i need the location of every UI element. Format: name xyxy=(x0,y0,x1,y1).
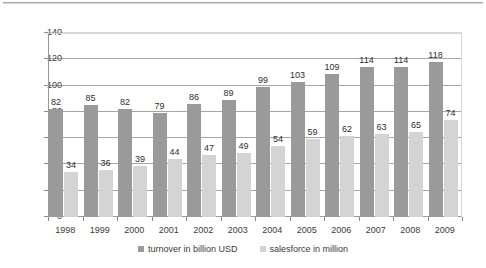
bar[interactable] xyxy=(271,146,285,217)
bar[interactable] xyxy=(429,62,443,217)
x-axis-tick-mark xyxy=(255,217,256,221)
bar-value-label: 82 xyxy=(112,98,138,107)
bar[interactable] xyxy=(64,172,78,217)
bar-value-label: 103 xyxy=(285,71,311,80)
x-axis-tick-mark xyxy=(393,217,394,221)
bar-value-label: 39 xyxy=(127,155,153,164)
bar-value-label: 34 xyxy=(58,161,84,170)
bar[interactable] xyxy=(222,100,236,217)
bar[interactable] xyxy=(306,139,320,217)
chart-legend: turnover in billion USDsalesforce in mil… xyxy=(0,244,486,254)
bar[interactable] xyxy=(168,159,182,217)
bar-group: 7944 xyxy=(152,33,187,217)
bar-value-label: 49 xyxy=(231,142,257,151)
bar-value-label: 36 xyxy=(93,159,119,168)
bar[interactable] xyxy=(237,153,251,217)
bar-value-label: 63 xyxy=(369,123,395,132)
bar-value-label: 82 xyxy=(43,98,69,107)
x-axis-tick-mark xyxy=(428,217,429,221)
legend-label: turnover in billion USD xyxy=(148,244,238,254)
bar-value-label: 44 xyxy=(162,148,188,157)
bar-value-label: 118 xyxy=(423,51,449,60)
x-axis-tick-mark xyxy=(152,217,153,221)
bar[interactable] xyxy=(325,74,339,217)
bar-group: 8536 xyxy=(83,33,118,217)
bar[interactable] xyxy=(99,170,113,217)
bar-value-label: 89 xyxy=(216,89,242,98)
x-axis-tick-mark xyxy=(324,217,325,221)
bar-value-label: 65 xyxy=(403,121,429,130)
legend-item[interactable]: salesforce in million xyxy=(260,244,349,254)
bar[interactable] xyxy=(394,67,408,217)
bar-group: 11465 xyxy=(393,33,428,217)
bar-value-label: 74 xyxy=(438,109,464,118)
bar[interactable] xyxy=(133,166,147,217)
bar[interactable] xyxy=(360,67,374,217)
bar-value-label: 85 xyxy=(78,94,104,103)
bar[interactable] xyxy=(256,87,270,217)
legend-label: salesforce in million xyxy=(270,244,349,254)
bar-value-label: 47 xyxy=(196,144,222,153)
x-axis-tick-mark xyxy=(462,217,463,221)
bar-group: 9954 xyxy=(255,33,290,217)
bar[interactable] xyxy=(444,120,458,217)
bar-value-label: 79 xyxy=(147,102,173,111)
legend-swatch-icon xyxy=(138,246,144,252)
bar-value-label: 59 xyxy=(300,128,326,137)
bar-group: 8239 xyxy=(117,33,152,217)
bar[interactable] xyxy=(153,113,167,217)
header-divider xyxy=(3,2,483,4)
bar-group: 8949 xyxy=(221,33,256,217)
bar[interactable] xyxy=(375,134,389,217)
bar-value-label: 114 xyxy=(388,56,414,65)
bar-group: 10359 xyxy=(290,33,325,217)
bar-group: 8647 xyxy=(186,33,221,217)
legend-swatch-icon xyxy=(260,246,266,252)
bar-group: 8234 xyxy=(48,33,83,217)
x-axis-tick-mark xyxy=(117,217,118,221)
bar-value-label: 114 xyxy=(354,56,380,65)
x-axis-tick-mark xyxy=(83,217,84,221)
bar-value-label: 86 xyxy=(181,93,207,102)
x-axis-tick-mark xyxy=(48,217,49,221)
bar-chart-figure: 020406080100120140 823485368239794486478… xyxy=(0,6,486,268)
bar-value-label: 54 xyxy=(265,135,291,144)
bar[interactable] xyxy=(187,104,201,217)
x-axis-tick-mark xyxy=(186,217,187,221)
x-axis-tick-mark xyxy=(221,217,222,221)
bar-value-label: 62 xyxy=(334,125,360,134)
legend-item[interactable]: turnover in billion USD xyxy=(138,244,238,254)
x-axis-tick-mark xyxy=(290,217,291,221)
bar-value-label: 99 xyxy=(250,76,276,85)
bar-group: 11874 xyxy=(428,33,463,217)
bar[interactable] xyxy=(202,155,216,217)
bar[interactable] xyxy=(340,136,354,217)
x-axis-tick-label: 2009 xyxy=(425,225,465,235)
x-axis-tick-mark xyxy=(359,217,360,221)
bar[interactable] xyxy=(291,82,305,217)
bar-value-label: 109 xyxy=(319,63,345,72)
bar[interactable] xyxy=(409,132,423,217)
